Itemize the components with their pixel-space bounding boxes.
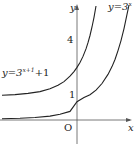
curve-label-3-pow-x: y=3x [108, 1, 132, 12]
label-base: y=3 [108, 1, 128, 12]
label-exponent: x [128, 0, 131, 7]
y-axis-label: y [70, 3, 76, 13]
curve-3-pow-x-plus-1-plus-1 [2, 6, 96, 95]
x-axis-label: x [128, 123, 134, 133]
label-base: y=3 [2, 67, 22, 78]
curve-label-3-pow-x-plus-1-plus-1: y=3x+1+1 [2, 67, 49, 78]
label-exponent: x+1 [22, 66, 34, 73]
label-suffix: +1 [35, 67, 50, 78]
curve-3-pow-x [2, 5, 129, 119]
y-tick-4: 4 [67, 35, 73, 45]
origin-label: O [64, 123, 72, 133]
y-tick-1: 1 [69, 90, 75, 100]
